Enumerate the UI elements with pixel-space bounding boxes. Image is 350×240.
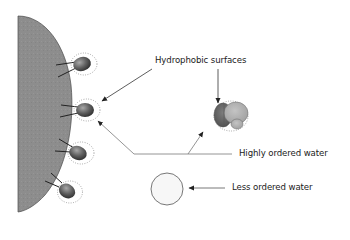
label-less-ordered-water: Less ordered water	[232, 182, 313, 192]
label-highly-ordered-water: Highly ordered water	[239, 148, 328, 158]
hydrophobic-molecule-cluster	[214, 101, 248, 131]
arrow-to-side-group	[102, 69, 152, 101]
leader-to-cluster-water	[188, 132, 203, 154]
leader-to-side-group-water	[98, 121, 232, 154]
highly-ordered-water-leaders	[98, 121, 232, 154]
less-ordered-water-circle	[151, 173, 183, 205]
label-hydrophobic-surfaces: Hydrophobic surfaces	[155, 55, 246, 65]
hydrophobic-surfaces-arrows	[102, 69, 218, 103]
